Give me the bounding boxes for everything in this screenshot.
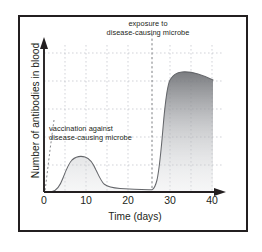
y-axis-title: Number of antibodies in blood: [30, 31, 41, 191]
x-tick-label-10: 10: [76, 194, 96, 206]
annotation-vaccination-line1: vaccination against: [49, 124, 132, 133]
x-tick-label-0: 0: [34, 194, 54, 206]
annotation-exposure: exposure to disease-causing microbe: [78, 19, 218, 37]
x-tick-label-40: 40: [202, 194, 222, 206]
annotation-vaccination: vaccination against disease-causing micr…: [49, 124, 132, 142]
annotation-exposure-line2: disease-causing microbe: [78, 28, 218, 37]
annotation-exposure-line1: exposure to: [78, 19, 218, 28]
x-tick-label-20: 20: [118, 194, 138, 206]
x-tick-label-30: 30: [160, 194, 180, 206]
x-axis-title: Time (days): [60, 211, 210, 222]
figure-root: exposure to disease-causing microbe vacc…: [0, 0, 262, 252]
annotation-vaccination-line2: disease-causing microbe: [49, 133, 132, 142]
